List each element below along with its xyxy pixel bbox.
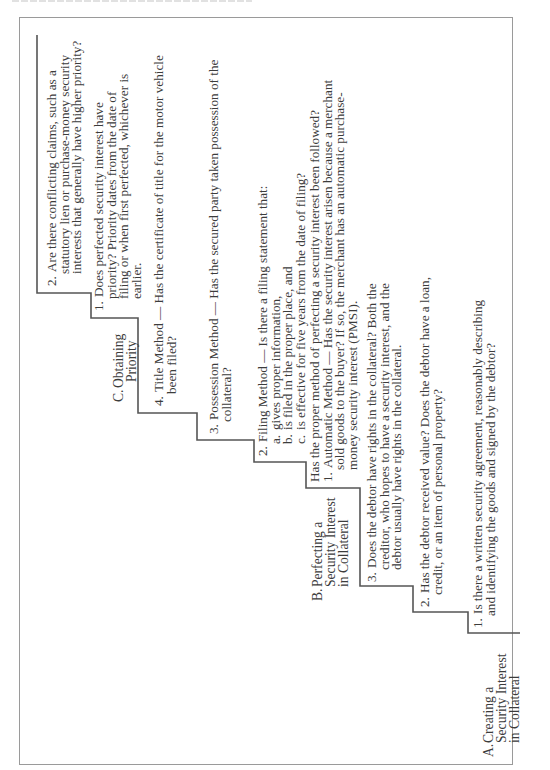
step-text-line: money security interest (PMSI). (347, 80, 360, 482)
step-c1: 1.Does perfected security interest have … (93, 74, 143, 311)
step-a3: 3.Does the debtor have rights in the col… (366, 283, 404, 582)
step-text-line: collateral? (221, 60, 234, 434)
section-c-title: C.Obtaining Priority (112, 334, 138, 402)
section-b-title: B.Perfecting a Security Interest in Coll… (311, 498, 350, 601)
step-number: 2. (419, 593, 432, 607)
step-number: 3. (366, 568, 379, 582)
sub-item-text: is effective for five years from the dat… (293, 173, 308, 430)
step-a2: 2.Has the debtor received value? Does th… (419, 277, 444, 607)
step-text-line: interests that generally have higher pri… (71, 41, 84, 286)
step-text-line: earlier. (131, 74, 144, 311)
step-text-line: credit, or an item of personal property? (432, 277, 445, 607)
step-number: 1. (322, 468, 335, 482)
sub-letter: c. (295, 430, 308, 444)
section-letter: B. (311, 587, 324, 601)
step-number: 2. (46, 272, 59, 286)
step-text-line: and identifying the goods and signed by … (485, 300, 498, 628)
section-title-line: Priority (125, 334, 138, 402)
section-letter: C. (112, 388, 125, 402)
section-letter: A. (482, 743, 495, 757)
step-number: 1. (472, 614, 485, 628)
step-number: 1. (93, 297, 106, 311)
step-b1-automatic-method: Has the proper method of perfecting a se… (309, 80, 359, 482)
step-b3-possession-method: 3.Possession Method — Has the secured pa… (208, 60, 233, 434)
step-text-line: Possession Method — Has the secured part… (206, 60, 221, 420)
step-number: 4. (153, 392, 166, 406)
step-a1: 1.Is there a written security agreement,… (472, 300, 497, 628)
step-number: 2. (257, 442, 270, 456)
step-text-line: been filed? (166, 55, 179, 406)
step-number: 3. (208, 420, 221, 434)
step-b2-filing-method: 2.Filing Method — Is there a filing stat… (257, 173, 307, 456)
step-c2: 2.Are there conflicting claims, such as … (46, 41, 84, 286)
step-b4-title-method: 4.Title Method — Has the certificate of … (153, 55, 178, 406)
section-a-title: A.Creating a Security Interest in Collat… (482, 654, 521, 757)
section-title-line: in Collateral (337, 498, 350, 601)
section-title-line: in Collateral (508, 654, 521, 757)
step-text-line: debtor usually have rights in the collat… (391, 283, 404, 582)
